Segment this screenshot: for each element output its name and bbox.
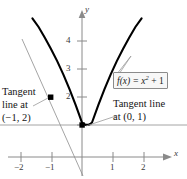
tangent-annotation-left-line2: line at (2, 99, 28, 111)
x-tick-label-2: 2 (141, 162, 146, 172)
y-tick-label-3: 3 (66, 63, 71, 73)
function-label-box: f(x) = x2 + 1 (113, 72, 168, 89)
y-tick-label-2: 2 (66, 91, 71, 101)
x-axis-label: x (174, 148, 178, 158)
y-axis-label: y (85, 4, 89, 14)
point-marker-0-1 (79, 122, 84, 127)
y-tick-label-4: 4 (66, 35, 71, 45)
function-label-text: f(x) = x (117, 76, 146, 86)
right-annotation-leader-line (86, 116, 116, 126)
x-tick-label-neg2: −2 (14, 162, 24, 172)
function-label-tail: + 1 (149, 76, 164, 86)
x-tick-label-neg1: −1 (45, 162, 55, 172)
tangent-annotation-left-line3: (−1, 2) (2, 112, 31, 124)
x-axis-arrow-icon (163, 154, 172, 161)
point-marker-neg1-2 (48, 95, 53, 100)
tangent-annotation-right-line2: at (0, 1) (113, 111, 146, 123)
figure-tangent-lines-parabola: x y −2 −1 1 2 4 3 2 Tangent line at (−1,… (0, 0, 187, 179)
tangent-annotation-right-line1: Tangent line (113, 98, 165, 110)
x-tick-label-1: 1 (110, 162, 115, 172)
tangent-annotation-left-line1: Tangent (2, 86, 36, 98)
left-annotation-leader-line (33, 98, 48, 106)
